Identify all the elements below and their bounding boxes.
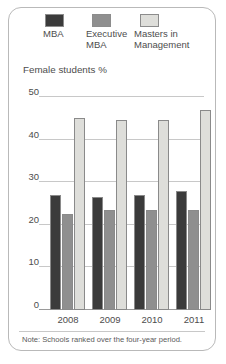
x-axis-tick-label: 2009 [87,314,133,325]
bar [146,210,157,310]
bar [158,120,169,310]
x-axis-tick-label: 2011 [171,314,217,325]
bar [134,195,145,310]
footnote-divider [19,331,205,332]
bar [176,191,187,310]
x-axis-tick-label: 2008 [45,314,91,325]
plot-area: 010203040502008200920102011 [9,8,215,350]
y-axis-tick-label: 50 [19,86,39,97]
y-axis-tick-label: 0 [19,299,39,310]
y-axis-tick-label: 20 [19,214,39,225]
bar [92,197,103,310]
bar-group [133,8,171,310]
x-axis-tick-label: 2010 [129,314,175,325]
bar-group [175,8,213,310]
bar [200,110,211,310]
bar-group [91,8,129,310]
bar [50,195,61,310]
bar [74,118,85,310]
bar [104,210,115,310]
chart-card: MBA Executive MBA Masters in Management … [8,7,216,351]
chart-footnote: Note: Schools ranked over the four-year … [22,335,182,344]
y-axis-tick-label: 10 [19,256,39,267]
bar [62,214,73,310]
y-axis-tick-label: 30 [19,171,39,182]
bar [116,120,127,310]
bar-group [49,8,87,310]
y-axis-tick-label: 40 [19,129,39,140]
bar [188,210,199,310]
